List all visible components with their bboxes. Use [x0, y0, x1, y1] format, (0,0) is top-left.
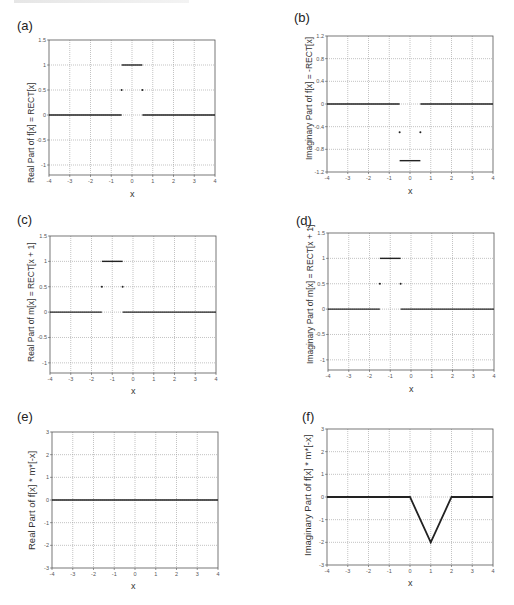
x-tick-label: -1 [387, 568, 392, 574]
x-tick-label: 3 [471, 568, 474, 574]
x-tick-label: 1 [429, 568, 432, 574]
y-tick-label: -3 [319, 562, 324, 568]
y-tick-label: -2 [319, 539, 324, 545]
y-tick-label: -1 [319, 517, 324, 523]
y-tick-label: 2 [321, 449, 324, 455]
x-tick-label: -2 [366, 568, 371, 574]
x-tick-label: -4 [325, 568, 330, 574]
x-tick-label: 2 [450, 568, 453, 574]
y-tick-label: 1 [321, 471, 324, 477]
x-tick-label: -3 [345, 568, 350, 574]
y-tick-label: 3 [321, 426, 324, 432]
y-tick-label: 0 [321, 494, 324, 500]
plot-area: -4-3-2-101234-3-2-10123 [0, 0, 514, 605]
x-tick-label: 4 [491, 568, 494, 574]
x-tick-label: 0 [408, 568, 411, 574]
